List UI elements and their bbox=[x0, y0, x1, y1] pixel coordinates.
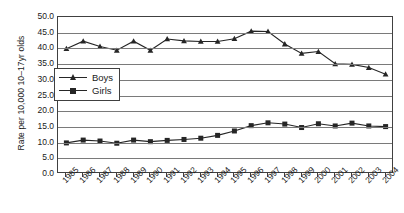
square-marker-icon bbox=[70, 88, 76, 94]
y-axis-tick-label: 50.0 bbox=[37, 11, 54, 21]
square-marker-icon bbox=[282, 122, 287, 127]
square-marker-icon bbox=[316, 121, 321, 126]
square-marker-icon bbox=[198, 136, 203, 141]
square-marker-icon bbox=[182, 137, 187, 142]
legend-label: Boys bbox=[92, 72, 113, 83]
y-axis-tick-label: 5.0 bbox=[42, 152, 54, 162]
gridline bbox=[58, 158, 392, 159]
y-axis-tick-label: 25.0 bbox=[37, 90, 54, 100]
square-marker-icon bbox=[215, 133, 220, 138]
legend-label: Girls bbox=[92, 85, 112, 96]
y-axis-tick-label: 30.0 bbox=[37, 74, 54, 84]
series-line bbox=[66, 123, 385, 143]
legend-swatch bbox=[59, 72, 87, 83]
figure-caption bbox=[0, 205, 404, 213]
gridline bbox=[58, 33, 392, 34]
legend-item-boys: Boys bbox=[59, 71, 113, 84]
square-marker-icon bbox=[350, 121, 355, 126]
y-axis-tick-label: 15.0 bbox=[37, 121, 54, 131]
gridline bbox=[58, 143, 392, 144]
y-axis-tick-label: 10.0 bbox=[37, 137, 54, 147]
legend-item-girls: Girls bbox=[59, 84, 113, 97]
y-axis-tick-label: 20.0 bbox=[37, 105, 54, 115]
gridline bbox=[58, 127, 392, 128]
chart-legend: BoysGirls bbox=[54, 68, 120, 101]
triangle-marker-icon bbox=[70, 74, 76, 80]
y-axis-tick-label: 40.0 bbox=[37, 42, 54, 52]
triangle-marker-icon bbox=[232, 36, 238, 41]
square-marker-icon bbox=[266, 120, 271, 125]
y-axis-tick-label: 0.0 bbox=[42, 168, 54, 178]
line-chart: Rate per 10,000 10–17yr olds 50.045.040.… bbox=[0, 0, 404, 213]
gridline bbox=[58, 111, 392, 112]
gridline bbox=[58, 64, 392, 65]
y-axis-tick-label: 35.0 bbox=[37, 58, 54, 68]
square-marker-icon bbox=[232, 128, 237, 133]
legend-swatch bbox=[59, 85, 87, 96]
y-axis-tick-labels: 50.045.040.035.030.025.020.015.010.05.00… bbox=[24, 0, 54, 213]
triangle-marker-icon bbox=[131, 38, 137, 43]
gridline bbox=[58, 48, 392, 49]
y-axis-tick-label: 45.0 bbox=[37, 27, 54, 37]
triangle-marker-icon bbox=[80, 38, 86, 43]
